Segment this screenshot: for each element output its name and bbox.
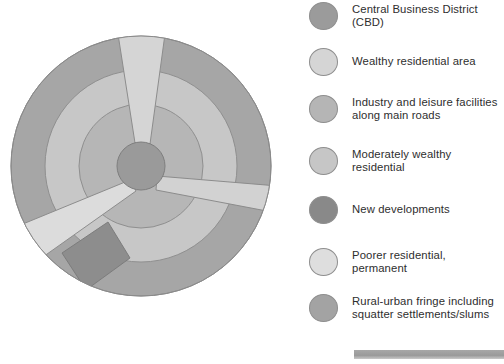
legend-item-poorer-residential[interactable]: Poorer residential, permanent — [305, 248, 504, 276]
legend-swatch-icon — [309, 95, 338, 123]
legend-item-label: Rural-urban fringe including squatter se… — [352, 295, 494, 322]
legend-swatch-icon — [309, 294, 338, 322]
page-footer-rule — [354, 350, 504, 359]
legend-swatch-icon — [309, 2, 338, 30]
legend-item-cbd[interactable]: Central Business District (CBD) — [305, 2, 504, 30]
legend-item-label: Poorer residential, permanent — [352, 249, 504, 276]
legend-item-moderately-wealthy[interactable]: Moderately wealthy residential — [305, 147, 504, 175]
legend-item-new-developments[interactable]: New developments — [305, 196, 504, 224]
page-root: Central Business District (CBD) Wealthy … — [0, 0, 504, 364]
land-use-legend: Central Business District (CBD) Wealthy … — [305, 0, 504, 338]
legend-swatch-icon — [309, 147, 338, 175]
legend-item-label: Central Business District (CBD) — [352, 3, 504, 30]
legend-swatch-icon — [309, 248, 338, 276]
legend-item-industry-leisure[interactable]: Industry and leisure facilities along ma… — [305, 95, 504, 123]
legend-item-label: Moderately wealthy residential — [352, 148, 504, 175]
legend-item-label: Industry and leisure facilities along ma… — [352, 96, 497, 123]
zone-central-business-district — [117, 142, 165, 190]
legend-swatch-icon — [309, 48, 338, 76]
legend-item-wealthy-residential[interactable]: Wealthy residential area — [305, 48, 504, 76]
legend-item-label: Wealthy residential area — [352, 55, 476, 68]
legend-item-label: New developments — [352, 203, 450, 216]
urban-model-diagram — [0, 0, 300, 330]
legend-swatch-icon — [309, 196, 338, 224]
legend-item-rural-urban-fringe[interactable]: Rural-urban fringe including squatter se… — [305, 294, 504, 322]
urban-model-svg — [0, 0, 300, 330]
